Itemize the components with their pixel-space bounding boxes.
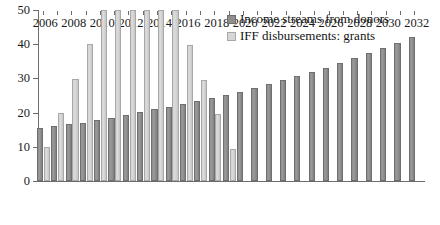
bar-disbursements-2015 (172, 10, 178, 181)
bar-income-2030 (380, 48, 386, 181)
bar-income-2020 (237, 92, 243, 181)
bar-income-2011 (108, 118, 114, 181)
x-tick-2006 (43, 11, 44, 15)
x-tick-label-2006: 2006 (33, 17, 58, 30)
x-tick-2032 (414, 11, 415, 15)
y-tick-20 (33, 113, 38, 114)
bar-income-2015 (166, 107, 172, 181)
bar-income-2027 (337, 63, 343, 181)
bar-income-2013 (137, 112, 143, 181)
bar-income-2021 (251, 88, 257, 181)
bar-disbursements-2012 (130, 10, 136, 181)
bar-income-2025 (309, 72, 315, 181)
legend-label: IFF disbursements: grants (240, 29, 375, 44)
x-axis-line (38, 181, 425, 182)
x-tick-label-2016: 2016 (176, 17, 201, 30)
bar-disbursements-2014 (158, 10, 164, 181)
bar-income-2006 (37, 128, 43, 181)
legend-swatch-icon-income (227, 15, 236, 24)
bar-disbursements-2017 (201, 80, 207, 181)
y-tick-0 (33, 181, 38, 182)
y-tick-label-50: 50 (18, 4, 31, 17)
bar-income-2022 (266, 84, 272, 181)
chart-legend: Income streams from donorsIFF disburseme… (227, 12, 389, 46)
x-tick-2031 (400, 11, 401, 15)
x-tick-2018 (214, 11, 215, 15)
bar-income-2026 (323, 68, 329, 181)
bar-income-2014 (151, 109, 157, 181)
bar-disbursements-2009 (87, 44, 93, 181)
x-tick-label-2008: 2008 (61, 17, 86, 30)
bar-disbursements-2010 (101, 10, 107, 181)
y-tick-label-0: 0 (24, 175, 30, 188)
bar-income-2023 (280, 80, 286, 181)
y-tick-label-20: 20 (18, 106, 31, 119)
bar-disbursements-2008 (72, 79, 78, 181)
y-tick-50 (33, 10, 38, 11)
bar-income-2009 (80, 123, 86, 181)
legend-item-income: Income streams from donors (227, 12, 389, 27)
bar-disbursements-2007 (58, 113, 64, 181)
x-tick-2017 (200, 11, 201, 15)
bar-income-2029 (366, 53, 372, 181)
bar-income-2019 (223, 95, 229, 181)
y-tick-30 (33, 78, 38, 79)
bar-disbursements-2006 (44, 147, 50, 181)
x-tick-2007 (57, 11, 58, 15)
y-tick-label-30: 30 (18, 72, 31, 85)
x-tick-2016 (186, 11, 187, 15)
bar-income-2024 (294, 76, 300, 181)
bar-disbursements-2011 (115, 10, 121, 181)
legend-swatch-icon-disbursements (227, 32, 236, 41)
legend-label: Income streams from donors (240, 12, 389, 27)
bar-disbursements-2016 (187, 45, 193, 181)
y-tick-label-10: 10 (18, 141, 31, 154)
x-tick-2009 (86, 11, 87, 15)
y-tick-label-40: 40 (18, 38, 31, 51)
bar-income-2007 (51, 126, 57, 181)
bar-income-2028 (351, 58, 357, 181)
x-tick-2008 (71, 11, 72, 15)
bar-income-2008 (66, 124, 72, 181)
bar-income-2012 (123, 115, 129, 181)
bar-disbursements-2013 (144, 10, 150, 181)
x-tick-label-2032: 2032 (404, 17, 429, 30)
bar-income-2017 (194, 101, 200, 181)
x-tick-label-2018: 2018 (204, 17, 229, 30)
bar-income-2031 (394, 43, 400, 181)
bar-income-2018 (209, 98, 215, 181)
y-tick-40 (33, 44, 38, 45)
bar-income-2032 (409, 37, 415, 181)
bar-income-2010 (94, 120, 100, 181)
bar-disbursements-2018 (215, 114, 221, 181)
bar-chart: 01020304050 2006200820102012201420162018… (0, 0, 440, 225)
bar-income-2016 (180, 104, 186, 181)
legend-item-disbursements: IFF disbursements: grants (227, 29, 389, 44)
bar-disbursements-2019 (230, 149, 236, 181)
